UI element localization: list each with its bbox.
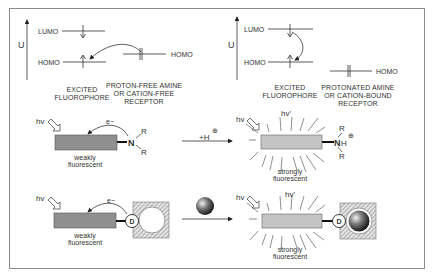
receptor-homo-label: HOMO [376,68,398,75]
svg-text:hv: hv [36,117,44,126]
axis-label-u: U [228,40,235,50]
svg-text:D: D [336,218,341,225]
metal-cation-icon [196,197,214,215]
homo-label: HOMO [244,59,266,66]
svg-text:hv: hv [236,193,244,202]
svg-text:R: R [141,148,147,157]
svg-text:fluorescent: fluorescent [273,253,307,260]
svg-text:fluorescent: fluorescent [68,161,102,168]
svg-text:PROTON-FREE AMINE: PROTON-FREE AMINE [106,82,182,89]
empty-binding-site [139,207,165,233]
bound-cation-icon [349,211,370,232]
fluorophore-block [54,213,116,228]
svg-text:⊕: ⊕ [212,127,218,134]
svg-text:FLUOROPHORE: FLUOROPHORE [54,94,109,101]
svg-text:R: R [339,152,345,161]
excitation-arrow-icon [247,196,259,208]
pet-sensor-diagram: U LUMO HOMO HOMO EXCITED FLUOROPHORE PRO… [0,0,433,277]
svg-text:H: H [341,139,347,148]
protonation-arrow: +H ⊕ [182,127,232,142]
energy-diagram-left: U LUMO HOMO HOMO EXCITED FLUOROPHORE PRO… [18,20,193,105]
electron-transfer-arrow [90,44,141,59]
lumo-label: LUMO [244,26,265,33]
fluorophore-block [55,135,117,150]
protonated-nitrogen: N [334,138,341,148]
fluorophore-block [261,135,322,149]
svg-text:R: R [141,127,147,136]
svg-text:D: D [129,218,134,225]
cation-binding-arrow [182,197,232,219]
svg-text:OR CATION-FREE: OR CATION-FREE [114,90,175,97]
excitation-arrow-icon [48,119,60,131]
svg-text:PROTONATED AMINE: PROTONATED AMINE [321,84,395,91]
cation-sensor-on: hv hv' D strongly fluorescent [236,190,376,260]
svg-text:e−: e− [106,118,114,125]
svg-text:hv: hv [236,115,244,124]
relaxation-arrow [292,32,303,60]
energy-diagram-right: U LUMO HOMO HOMO EXCITED FLUOROPHORE PRO… [228,17,398,107]
electron-transfer-arrow [88,125,128,136]
receptor-homo-label: HOMO [171,51,193,58]
axis-label-u: U [18,40,25,50]
svg-text:R: R [339,124,345,133]
svg-text:EXCITED: EXCITED [274,84,305,91]
amine-nitrogen: N [128,138,135,148]
lumo-label: LUMO [38,28,59,35]
svg-text:RECEPTOR: RECEPTOR [338,100,378,107]
amine-sensor-on: hv hv' N H ⊕ R R strongly fluorescent [236,109,354,182]
homo-label: HOMO [38,59,60,66]
svg-text:hv: hv [36,194,44,203]
cation-sensor-off: hv D e− weakly fluorescent [36,194,169,246]
excitation-arrow-icon [247,118,259,130]
svg-text:OR CATION-BOUND: OR CATION-BOUND [324,92,391,99]
electron-transfer-arrow [88,203,127,214]
svg-text:FLUOROPHORE: FLUOROPHORE [262,92,317,99]
svg-text:fluorescent: fluorescent [68,239,102,246]
amine-sensor-off: hv N R R e− weakly fluorescent [36,117,147,168]
svg-text:⊕: ⊕ [348,132,354,139]
svg-text:EXCITED: EXCITED [66,86,97,93]
svg-text:fluorescent: fluorescent [273,175,307,182]
excitation-arrow-icon [48,197,60,209]
svg-text:hv': hv' [285,190,295,199]
svg-text:RECEPTOR: RECEPTOR [124,98,164,105]
fluorophore-block [262,214,322,228]
svg-text:hv': hv' [281,109,291,118]
